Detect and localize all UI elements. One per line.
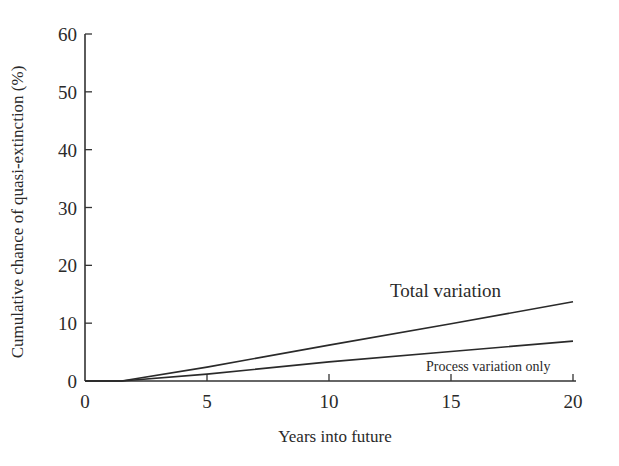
y-tick-label: 60 <box>58 24 77 45</box>
x-tick-label: 0 <box>80 391 90 412</box>
y-tick-label: 10 <box>58 313 77 334</box>
x-axis-title: Years into future <box>278 427 391 446</box>
y-axis-title: Cumulative chance of quasi-extinction (%… <box>8 66 27 359</box>
annotation-total-variation: Total variation <box>390 280 502 301</box>
x-tick-label: 20 <box>564 391 583 412</box>
x-tick-label: 15 <box>442 391 461 412</box>
y-tick-label: 40 <box>58 140 77 161</box>
y-tick-label: 50 <box>58 82 77 103</box>
y-tick-label: 20 <box>58 255 77 276</box>
axes <box>85 34 576 381</box>
chart: 0102030405060 05101520 Total variation P… <box>0 0 619 466</box>
annotation-process-variation: Process variation only <box>426 359 550 374</box>
x-tick-label: 10 <box>320 391 339 412</box>
y-ticks: 0102030405060 <box>58 24 92 392</box>
x-tick-label: 5 <box>202 391 212 412</box>
y-tick-label: 30 <box>58 198 77 219</box>
x-ticks: 05101520 <box>80 374 582 412</box>
y-tick-label: 0 <box>68 371 78 392</box>
